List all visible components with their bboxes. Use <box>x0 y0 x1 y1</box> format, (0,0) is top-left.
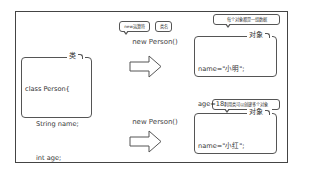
class-box-title: 类 <box>67 52 85 61</box>
code-line: class Person{ <box>25 84 91 96</box>
code-line: int age; <box>25 153 91 165</box>
new-person-label-2: new Person() <box>120 118 190 127</box>
callout-tail <box>123 31 129 35</box>
right-arrow-icon <box>129 130 162 153</box>
class-code: class Person{ String name; int age; Stri… <box>22 58 91 173</box>
field-line: name="小红"; <box>198 141 276 153</box>
callout-new-operator: new运算符 <box>119 21 150 32</box>
field-line: name="小明"; <box>198 64 276 76</box>
code-line: String name; <box>25 119 91 131</box>
object-box-title: 对象 <box>247 31 272 40</box>
class-box: 类 class Person{ String name; int age; St… <box>21 57 92 118</box>
object-box-1: 对象 name="小明"; age=18; address="北京市"; <box>194 36 277 77</box>
object-box-2: 对象 name="小红"; age=17; address="成都市"; <box>194 113 277 154</box>
callout-text: new运算符 <box>124 24 145 29</box>
object-fields: name="小红"; age=17; address="成都市"; <box>195 114 276 173</box>
callout-tail <box>225 24 231 28</box>
object-box-title: 对象 <box>247 108 272 117</box>
callout-class-name: 类名 <box>155 21 172 32</box>
callout-text: 每个对象都是一组数据 <box>227 17 267 22</box>
right-arrow-icon <box>129 55 162 78</box>
callout-text: 类名 <box>160 24 168 29</box>
callout-object-data: 每个对象都是一组数据 <box>213 14 280 25</box>
new-person-label-1: new Person() <box>120 38 190 47</box>
